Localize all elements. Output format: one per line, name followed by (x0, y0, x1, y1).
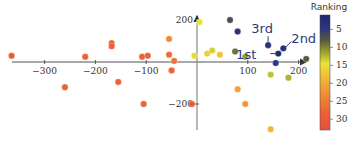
colorbar-tick-label: 15 (336, 60, 348, 70)
data-point (166, 36, 172, 42)
data-point (62, 84, 68, 90)
data-point (234, 28, 240, 34)
x-tick-label: −200 (83, 66, 108, 76)
data-point (303, 56, 309, 62)
data-point (140, 101, 146, 107)
data-point (285, 75, 291, 81)
x-tick-label: 100 (239, 66, 256, 76)
data-point (242, 101, 248, 107)
data-point (273, 60, 279, 66)
colorbar-title: Ranking (311, 2, 347, 12)
data-point (196, 19, 202, 25)
y-tick-label: 200 (176, 15, 193, 25)
annotation-label: 3rd (251, 21, 273, 36)
data-point (227, 17, 233, 23)
data-point (115, 79, 121, 85)
data-point (265, 42, 271, 48)
colorbar-tick-label: 10 (336, 42, 348, 52)
colorbar-gradient (320, 15, 330, 130)
data-point (166, 51, 172, 57)
data-point (275, 50, 281, 56)
scatter-chart: −300−200−100100200 200−200 1st2nd3rd Ran… (0, 0, 354, 141)
data-point (139, 54, 145, 60)
data-point (82, 54, 88, 60)
colorbar-ticks: 51015202530 (330, 24, 348, 124)
x-tick-label: −300 (32, 66, 57, 76)
data-point (234, 86, 240, 92)
data-point (267, 126, 273, 132)
colorbar-tick-label: 30 (336, 114, 348, 124)
data-point (209, 47, 215, 53)
x-tick-label: −100 (134, 66, 159, 76)
colorbar-tick-label: 20 (336, 78, 348, 88)
colorbar-tick-label: 5 (336, 24, 342, 34)
colorbar: Ranking 51015202530 (311, 2, 348, 130)
data-point (217, 51, 223, 57)
data-point (267, 71, 273, 77)
annotation-label: 1st (236, 47, 256, 62)
data-point (191, 53, 197, 59)
data-point (280, 45, 286, 51)
annotation-label: 2nd (291, 31, 316, 46)
data-point (8, 53, 14, 59)
colorbar-tick-label: 25 (336, 96, 348, 106)
data-point (145, 53, 151, 59)
data-point (171, 58, 177, 64)
data-point (189, 101, 195, 107)
data-point (168, 67, 174, 73)
data-point (108, 43, 114, 49)
x-tick-label: 200 (290, 66, 307, 76)
